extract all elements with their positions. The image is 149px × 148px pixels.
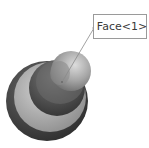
callout-text: Face<1> <box>93 20 147 33</box>
cad-viewport[interactable]: Face<1> <box>0 0 149 148</box>
callout-anchor-point <box>61 81 63 83</box>
face-callout-label[interactable]: Face<1> <box>93 14 147 39</box>
